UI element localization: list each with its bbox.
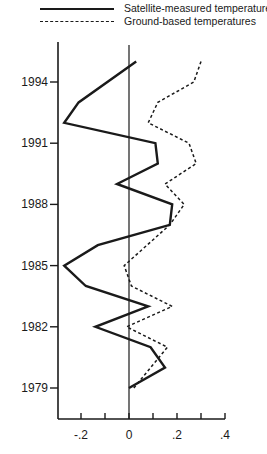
chart-axes <box>50 42 225 419</box>
y-tick-label: 1982 <box>8 320 48 334</box>
ground-based-series-line <box>124 62 201 388</box>
x-tick-label: -.2 <box>66 428 96 442</box>
x-tick-label: .4 <box>210 428 240 442</box>
chart-series <box>64 62 201 388</box>
y-tick-label: 1988 <box>8 197 48 211</box>
y-tick-label: 1991 <box>8 136 48 150</box>
y-tick-label: 1979 <box>8 381 48 395</box>
x-tick-label: 0 <box>114 428 144 442</box>
x-tick-label: .2 <box>162 428 192 442</box>
y-tick-label: 1994 <box>8 75 48 89</box>
satellite-series-line <box>64 62 172 388</box>
y-tick-label: 1985 <box>8 259 48 273</box>
